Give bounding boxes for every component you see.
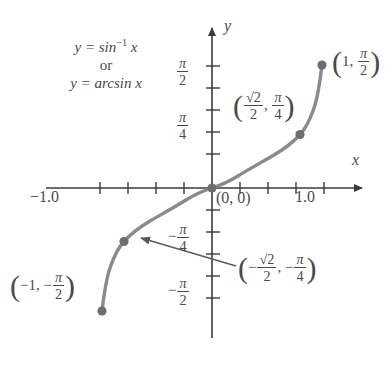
arcsin-graph-figure: y = sin−1 x or y = arcsin x π 2 π 4 − π …	[0, 0, 392, 375]
point-right-endpoint	[317, 60, 326, 69]
x-tick-label-one: 1.0	[295, 189, 315, 206]
function-label-or: or	[46, 58, 166, 74]
point-upper	[295, 130, 304, 139]
function-label-line1: y = sin−1 x	[46, 38, 166, 56]
x-tick-label-negative-one: −1.0	[30, 189, 59, 206]
point-label-right-endpoint: (1, π 2 )	[332, 46, 380, 78]
point-label-left-endpoint: (−1, − π 2 )	[10, 270, 75, 302]
point-label-lower: (− √2 2 , − π 4 )	[238, 252, 317, 284]
y-tick-label-negative-pi-over-4: − π 4	[168, 222, 190, 254]
origin-label: (0, 0)	[216, 190, 251, 207]
point-label-upper: ( √2 2 , π 4 )	[233, 90, 295, 122]
y-tick-label-negative-pi-over-2: − π 2	[168, 276, 190, 308]
point-left-endpoint	[97, 306, 106, 315]
y-axis-ticks	[206, 66, 220, 298]
y-tick-label-pi-over-4: π 4	[176, 110, 189, 142]
y-tick-label-pi-over-2: π 2	[176, 56, 189, 88]
y-axis-label: y	[224, 18, 231, 35]
point-lower	[119, 237, 128, 246]
x-axis-label: x	[352, 152, 359, 169]
function-label-line3: y = arcsin x	[46, 76, 166, 92]
function-label: y = sin−1 x or y = arcsin x	[46, 36, 166, 93]
